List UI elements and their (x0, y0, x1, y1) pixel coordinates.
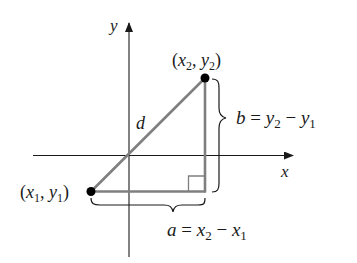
horizontal-leg-label: a = x2 − x1 (167, 219, 247, 243)
distance-formula-diagram: x y (x1, y1) (x2, y2) d b = y2 − y1 a = … (0, 0, 357, 263)
point-1 (87, 187, 96, 196)
point-2-label: (x2, y2) (172, 50, 221, 73)
right-angle-marker (189, 176, 206, 192)
horizontal-brace-icon (91, 198, 205, 212)
point-2 (201, 74, 210, 83)
x-axis-label: x (280, 162, 289, 181)
point-1-label: (x1, y1) (20, 182, 69, 205)
vertical-brace-icon (212, 79, 226, 192)
vertical-leg-label: b = y2 − y1 (236, 107, 316, 131)
hypotenuse-label: d (136, 113, 146, 133)
y-axis-label: y (108, 16, 118, 35)
hypotenuse-d (91, 78, 205, 192)
right-triangle (91, 78, 206, 193)
